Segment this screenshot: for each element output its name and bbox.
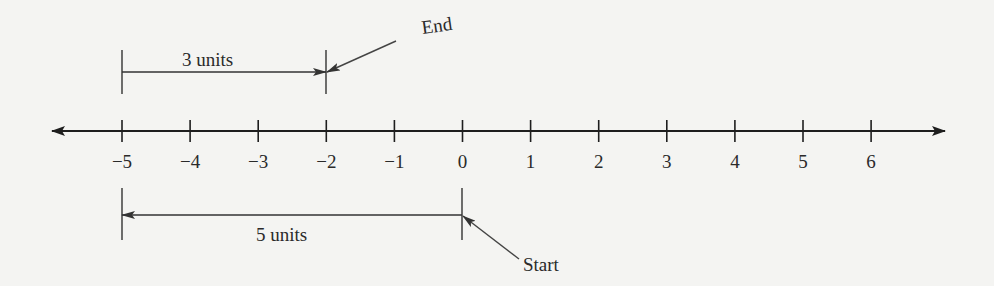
tick-label: 0 <box>458 152 468 171</box>
diagram-graphics <box>0 0 994 286</box>
end-label: End <box>420 14 453 37</box>
tick-label: −1 <box>384 152 404 171</box>
tick-label: 5 <box>798 152 808 171</box>
start-label: Start <box>523 255 559 274</box>
start-pointer <box>463 216 519 259</box>
number-line-diagram: −5−4−3−2−10123456 3 units 5 units End St… <box>0 0 994 286</box>
tick-label: −4 <box>180 152 200 171</box>
bottom-bracket-label: 5 units <box>256 225 307 244</box>
tick-label: −3 <box>248 152 268 171</box>
tick-label: 6 <box>866 152 876 171</box>
top-bracket-label: 3 units <box>182 50 233 69</box>
tick-label: 1 <box>526 152 536 171</box>
tick-label: 4 <box>730 152 740 171</box>
tick-label: −2 <box>316 152 336 171</box>
tick-label: 2 <box>594 152 604 171</box>
tick-label: 3 <box>662 152 672 171</box>
end-pointer <box>327 41 396 72</box>
tick-label: −5 <box>112 152 132 171</box>
